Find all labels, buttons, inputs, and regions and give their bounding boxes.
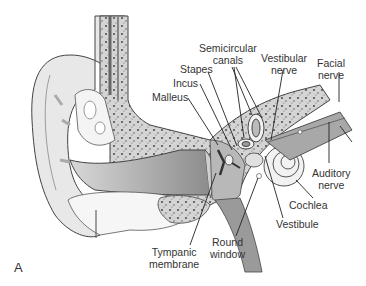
label-cochlea: Cochlea [289,199,328,211]
ear-anatomy-illustration [0,0,366,286]
label-tympanic-membrane: Tympanic membrane [149,246,199,270]
vestibule [245,153,263,167]
label-facial-nerve: Facial nerve [317,57,345,81]
label-vestibule: Vestibule [276,218,319,230]
label-round-window: Round window [210,236,245,260]
round-window [257,174,262,179]
panel-letter: A [14,260,23,275]
label-auditory-nerve: Auditory nerve [312,167,351,191]
label-incus: Incus [173,77,198,89]
label-stapes: Stapes [180,63,213,75]
label-vestibular-nerve: Vestibular nerve [261,52,307,76]
label-malleus: Malleus [152,91,188,103]
eustachian-tube [215,198,262,272]
